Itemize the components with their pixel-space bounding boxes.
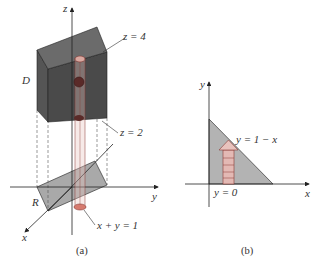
region-label: R <box>31 196 39 208</box>
leader-xy1 <box>84 210 95 225</box>
boundary-line-label: x + y = 1 <box>96 219 138 231</box>
caption-a: (a) <box>76 245 88 257</box>
upper-boundary-label: y = 1 − x <box>235 133 277 145</box>
solid-label: D <box>21 74 30 86</box>
bottom-plane-label: z = 2 <box>119 126 143 138</box>
triangle-region <box>209 119 273 184</box>
leader-z4 <box>103 38 125 52</box>
x-axis-label-b: x <box>304 187 310 199</box>
column-prism <box>74 56 86 210</box>
top-plane-label: z = 4 <box>122 30 146 42</box>
lower-boundary-label: y = 0 <box>213 186 238 198</box>
caption-b: (b) <box>241 245 254 257</box>
y-axis-label-b: y <box>199 78 205 90</box>
x-axis-label-a: x <box>21 231 27 243</box>
z-axis-label-a: z <box>62 2 68 14</box>
panel-a: z y x D R z = 4 z = 2 x + y = 1 (a) <box>10 2 158 257</box>
figure-canvas: z y x D R z = 4 z = 2 x + y = 1 (a) y x … <box>0 0 319 260</box>
leader-z2 <box>102 121 118 133</box>
y-axis-label-a: y <box>151 190 157 202</box>
panel-b: y x y = 1 − x y = 0 (b) <box>185 78 310 257</box>
